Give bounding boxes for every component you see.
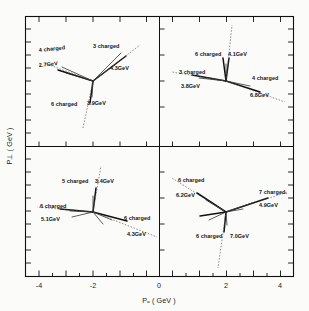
jet-label-6-multiplicity: 4 charged <box>252 75 278 81</box>
jet-label-1-multiplicity: 4 charged <box>38 44 65 53</box>
jet-label-3-multiplicity: 6 charged <box>51 101 77 107</box>
jet-label-8-multiplicity: 6 charged <box>40 203 66 209</box>
xtick-label-2: 0 <box>157 281 161 290</box>
y-axis-label: P⊥ ( GeV ) <box>5 128 14 165</box>
jet-label-11-multiplicity: 7 charged. <box>259 189 287 195</box>
event-display-figure: 4 charged 2.7GeV 3 charged 4.3GeV 6 char… <box>0 0 309 311</box>
jet-label-11-energy: 4.9GeV <box>259 202 278 208</box>
panel-top-right: 6 charged 4.1GeV 3 charged 3.8GeV 4 char… <box>172 25 285 102</box>
jet-label-12-multiplicity: 6 charged <box>196 233 222 239</box>
jet-arrow-12 <box>200 212 227 268</box>
jet-label-7-multiplicity: 5 charged <box>62 178 88 184</box>
jet-label-4-energy: 4.1GeV <box>228 51 247 57</box>
xtick-label-4: 4 <box>278 281 282 290</box>
xtick-label-0: -4 <box>36 281 43 290</box>
x-axis-tick-labels: -4 -2 0 2 4 <box>36 281 282 290</box>
jet-label-12-energy: 7.0GeV <box>230 233 249 239</box>
jet-label-10-multiplicity: 6 charged <box>178 177 204 183</box>
jet-label-2-multiplicity: 3 charged <box>93 43 119 49</box>
jet-label-5-multiplicity: 3 charged <box>179 69 205 75</box>
jet-arrow-2 <box>93 45 140 81</box>
jet-arrow-7 <box>93 166 101 212</box>
jet-label-9-multiplicity: 6 charged <box>124 215 150 221</box>
jet-label-10-energy: 6.2GeV <box>176 192 195 198</box>
x-axis-label: Pₐ ( GeV ) <box>142 296 176 305</box>
xtick-label-3: 2 <box>224 281 228 290</box>
jet-label-4-multiplicity: 6 charged <box>195 51 221 57</box>
jet-label-6-energy: 6.8GeV <box>250 92 269 98</box>
jet-label-2-energy: 4.3GeV <box>110 65 129 71</box>
panel-bottom-right: 6 charged 6.2GeV 7 charged. 4.9GeV 6 cha… <box>172 177 288 268</box>
jet-label-8-energy: 5.1GeV <box>41 216 60 222</box>
panel-top-left: 4 charged 2.7GeV 3 charged 4.3GeV 6 char… <box>38 43 140 128</box>
xtick-label-1: -2 <box>90 281 97 290</box>
jet-arrow-11 <box>226 192 288 212</box>
jet-label-3-energy: 3.9GeV <box>87 100 106 106</box>
jet-label-9-energy: 4.3GeV <box>127 231 146 237</box>
panel-bottom-left: 5 charged 3.4GeV 6 charged 5.1GeV 6 char… <box>37 166 157 237</box>
jet-label-7-energy: 3.4GeV <box>95 178 114 184</box>
jet-label-5-energy: 3.8GeV <box>181 83 200 89</box>
